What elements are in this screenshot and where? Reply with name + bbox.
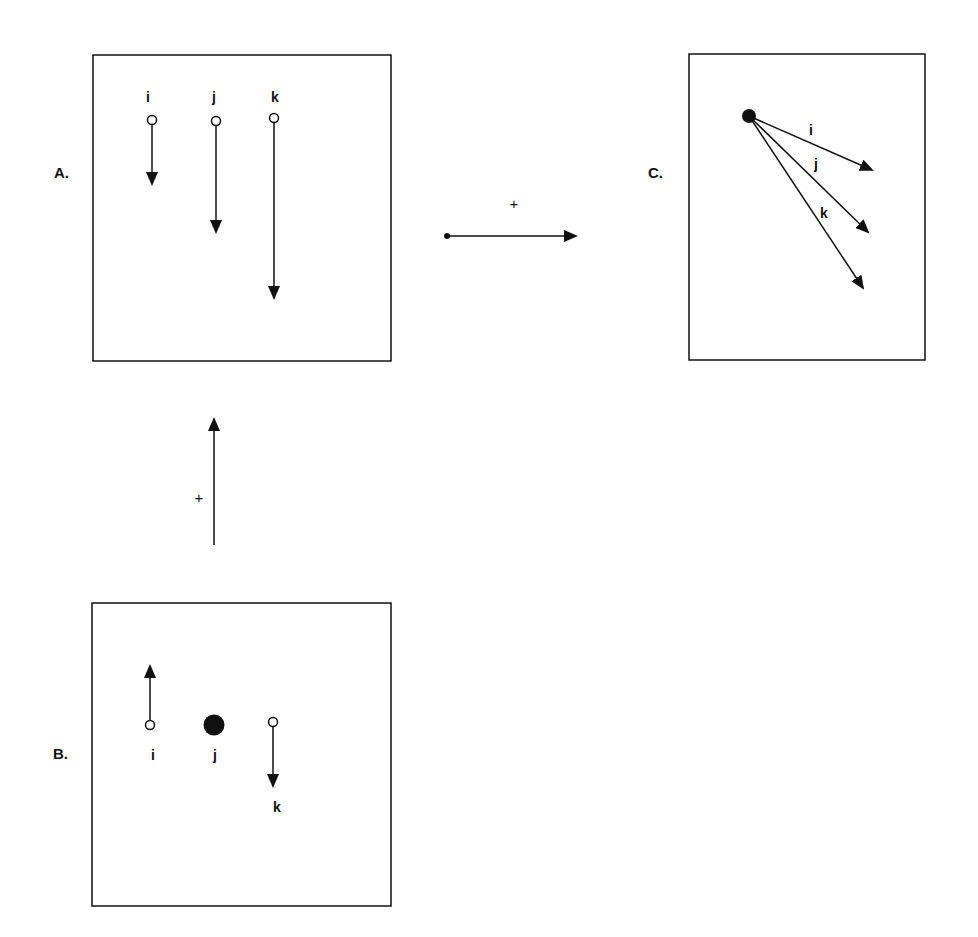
connector-b-to-a-sign: + [195,489,204,506]
panel-c: C. i j k [648,54,925,360]
panel-a-point-j-label: j [211,89,216,105]
panel-a-point-j [212,117,221,126]
panel-b-box [92,603,391,906]
connector-a-to-c: + [444,195,576,239]
panel-c-vector-k-label: k [820,205,828,221]
panel-a-box [93,55,391,361]
panel-b-point-j [204,715,225,736]
connector-b-to-a: + [195,419,214,545]
panel-c-vector-i-label: i [809,122,813,138]
panel-a: A. i j k [54,55,391,361]
panel-a-point-i [148,116,157,125]
panel-a-point-k-label: k [271,89,279,105]
panel-c-vector-j-label: j [813,156,818,172]
panel-b-label: B. [53,745,68,762]
panel-b-point-k-label: k [273,799,281,815]
panel-b-point-i-label: i [151,747,155,763]
connector-a-to-c-sign: + [510,195,519,212]
panel-a-point-i-label: i [146,89,150,105]
panel-a-point-k [270,114,279,123]
panel-b-point-i [146,721,155,730]
panel-b-point-j-label: j [212,747,217,763]
diagram-canvas: A. i j k + + B. i j k C. [0,0,978,937]
panel-c-origin-point [742,109,756,123]
panel-b-point-k [269,718,278,727]
panel-b: B. i j k [53,603,391,906]
panel-c-label: C. [648,164,663,181]
panel-c-box [689,54,925,360]
panel-a-label: A. [54,164,69,181]
